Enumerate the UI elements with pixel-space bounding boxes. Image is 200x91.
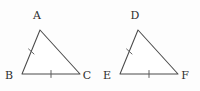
- vertex-label-b: B: [5, 69, 13, 82]
- vertex-label-d: D: [131, 9, 140, 22]
- vertex-label-c: C: [83, 69, 91, 82]
- vertex-label-f: F: [181, 69, 189, 82]
- vertex-label-e: E: [103, 69, 111, 82]
- vertex-label-a: A: [32, 9, 42, 22]
- figure-canvas: A B C D E F: [0, 0, 200, 91]
- figure-background: [0, 0, 200, 91]
- geometry-figure: A B C D E F: [0, 0, 200, 91]
